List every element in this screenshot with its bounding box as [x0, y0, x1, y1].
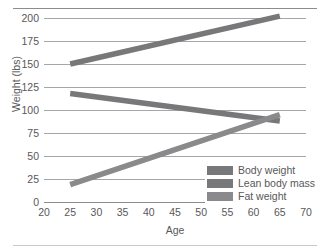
legend-swatch	[207, 179, 233, 188]
x-tick-label: 40	[143, 207, 155, 218]
y-tick-label: 100	[21, 105, 39, 116]
x-tick-label: 35	[117, 207, 129, 218]
x-tick-label: 65	[274, 207, 286, 218]
y-tick-label: 25	[27, 174, 39, 185]
legend-item: Fat weight	[207, 190, 315, 202]
y-tick-label: 175	[21, 36, 39, 47]
x-tick-label: 45	[169, 207, 181, 218]
x-axis-title: Age	[44, 224, 306, 236]
legend-item: Body weight	[207, 164, 315, 176]
y-tick-label: 150	[21, 59, 39, 70]
x-tick-label: 50	[195, 207, 207, 218]
y-axis-title: Weight (lbs)	[10, 39, 22, 129]
y-tick-label: 50	[27, 151, 39, 162]
y-tick-label: 200	[21, 13, 39, 24]
legend-item: Lean body mass	[207, 177, 315, 189]
x-tick-label: 70	[300, 207, 312, 218]
x-tick-label: 20	[38, 207, 50, 218]
x-tick-label: 30	[91, 207, 103, 218]
x-tick-label: 25	[64, 207, 76, 218]
chart-legend: Body weightLean body massFat weight	[205, 162, 317, 204]
bottom-divider-rule	[13, 245, 317, 246]
legend-label: Fat weight	[238, 191, 286, 202]
y-tick-label: 125	[21, 82, 39, 93]
top-divider-rule	[13, 8, 317, 9]
legend-label: Lean body mass	[238, 178, 315, 189]
y-tick-label: 75	[27, 128, 39, 139]
series-line	[70, 16, 280, 64]
series-line	[70, 93, 280, 121]
legend-label: Body weight	[238, 165, 295, 176]
chart-figure: Weight (lbs) 0255075100125150175200 2025…	[0, 0, 329, 252]
x-tick-label: 55	[222, 207, 234, 218]
legend-swatch	[207, 192, 233, 201]
legend-swatch	[207, 166, 233, 175]
x-tick-label: 60	[248, 207, 260, 218]
